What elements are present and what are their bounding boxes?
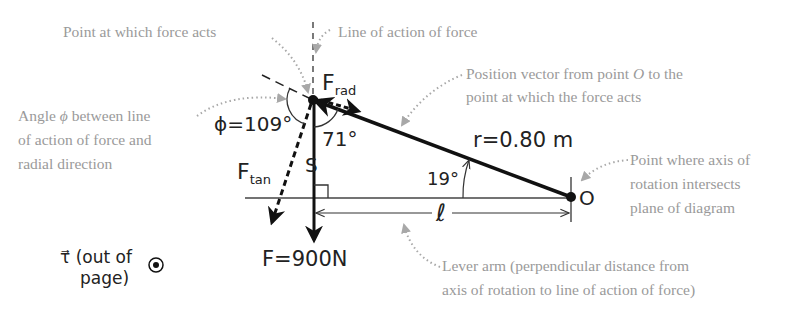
caption-O: O (633, 65, 644, 82)
caption-phi: ϕ (60, 107, 68, 124)
label-f-tan: Ftan (237, 159, 271, 184)
label-f-rad: Frad (322, 70, 356, 95)
caption-position-vector-1: Position vector from point O to the (466, 64, 683, 83)
caption-axis-point-1: Point where axis of (630, 150, 750, 169)
force-point (308, 95, 318, 105)
label-origin-o: O (579, 186, 595, 210)
label-main: F (237, 159, 250, 184)
label-torque-page: page) (80, 268, 129, 288)
caption-angle-phi-2: of action of force and (18, 130, 151, 149)
callout-point-of-force (272, 38, 308, 92)
caption-axis-point-2: rotation intersects (630, 174, 741, 193)
label-angle-19: 19° (427, 168, 459, 189)
label-sub: tan (250, 172, 271, 187)
angle-19-arc (463, 160, 469, 198)
caption-position-vector-2: point at which the force acts (466, 87, 641, 106)
caption-text: Angle (18, 107, 60, 124)
angle-71-arc (314, 109, 338, 127)
label-right-angle-s: S (305, 153, 318, 177)
caption-axis-point-3: plane of diagram (630, 198, 735, 217)
callout-line-of-action (316, 30, 330, 52)
caption-text: between line (68, 107, 151, 124)
caption-line-of-action: Line of action of force (338, 22, 477, 41)
torque-symbol: τ⃗ (60, 247, 70, 267)
caption-angle-phi-1: Angle ϕ between line (18, 106, 150, 125)
out-of-page-dot (153, 262, 159, 268)
label-angle-71: 71° (322, 127, 357, 151)
caption-lever-arm-1: Lever arm (perpendicular distance from (442, 256, 689, 275)
pivot-point (566, 192, 576, 202)
label-main: F (322, 70, 335, 95)
torque-text-1: (out of (76, 247, 132, 267)
torque-diagram: Point at which force acts Line of action… (0, 0, 793, 318)
caption-point-of-force: Point at which force acts (63, 22, 216, 41)
label-r-value: r=0.80 m (473, 128, 573, 152)
label-torque-vector: τ⃗ (out of (60, 247, 132, 267)
caption-text: to the (644, 65, 683, 82)
label-lever-arm: ℓ (436, 199, 446, 227)
callout-position-vector (402, 75, 462, 125)
label-force-value: F=900N (262, 247, 347, 271)
label-sub: rad (335, 83, 357, 98)
caption-text: Position vector from point (466, 65, 633, 82)
caption-angle-phi-3: radial direction (18, 154, 112, 173)
label-phi: ϕ=109° (214, 112, 292, 136)
caption-lever-arm-2: axis of rotation to line of action of fo… (442, 280, 695, 299)
right-angle-mark (314, 185, 328, 198)
callout-lever-arm (404, 225, 440, 267)
callout-axis-point (582, 160, 628, 180)
